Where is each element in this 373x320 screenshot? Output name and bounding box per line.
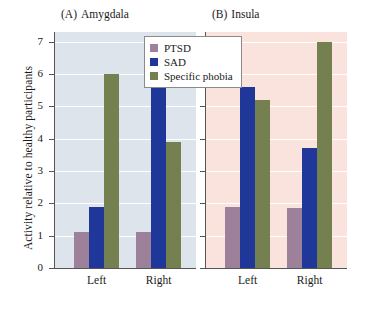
y-tick xyxy=(49,203,54,204)
legend-label: PTSD xyxy=(164,43,191,54)
x-axis-line-b xyxy=(205,268,347,269)
legend-swatch-icon xyxy=(150,58,158,66)
y-tick-label-6: 6 xyxy=(25,67,43,79)
gridline xyxy=(55,139,196,140)
bar-sad-right xyxy=(302,148,317,268)
y-tick xyxy=(49,74,54,75)
bar-ptsd-right xyxy=(136,232,151,268)
figure-bar-chart: Activity relative to healthy participant… xyxy=(0,0,373,320)
y-tick-label-7: 7 xyxy=(25,35,43,47)
legend-swatch-icon xyxy=(150,44,158,52)
bar-sad-left xyxy=(89,207,104,268)
panel-a-paren: (A) xyxy=(61,8,77,20)
bar-specific-phobia-left xyxy=(104,74,119,268)
y-axis-line-a xyxy=(54,32,55,269)
bar-sad-left xyxy=(240,87,255,268)
legend-item-specific-phobia: Specific phobia xyxy=(150,69,233,83)
y-tick xyxy=(200,236,205,237)
bar-ptsd-right xyxy=(287,208,302,268)
gridline xyxy=(55,106,196,107)
legend-swatch-icon xyxy=(150,72,158,80)
legend-item-ptsd: PTSD xyxy=(150,41,233,55)
y-tick xyxy=(49,139,54,140)
y-tick-label-4: 4 xyxy=(25,132,43,144)
panel-b-title: (B)Insula xyxy=(212,8,259,20)
y-tick-label-2: 2 xyxy=(25,196,43,208)
y-tick xyxy=(49,236,54,237)
y-tick xyxy=(49,106,54,107)
legend-label: Specific phobia xyxy=(164,71,233,82)
y-tick xyxy=(49,42,54,43)
y-tick xyxy=(200,268,205,269)
bar-specific-phobia-right xyxy=(317,42,332,268)
y-tick-label-3: 3 xyxy=(25,164,43,176)
y-tick xyxy=(49,268,54,269)
y-tick xyxy=(200,203,205,204)
y-tick xyxy=(200,171,205,172)
y-tick-label-0: 0 xyxy=(25,261,43,273)
panel-a-title: (A)Amygdala xyxy=(61,8,129,20)
x-tick-label-b-left: Left xyxy=(218,274,278,286)
chart-legend: PTSDSADSpecific phobia xyxy=(144,36,242,88)
bar-ptsd-left xyxy=(74,232,89,268)
bar-specific-phobia-right xyxy=(166,142,181,268)
panel-b-title-text: Insula xyxy=(231,8,259,20)
y-tick-label-5: 5 xyxy=(25,99,43,111)
bar-ptsd-left xyxy=(225,207,240,268)
y-tick-label-1: 1 xyxy=(25,229,43,241)
x-tick-label-a-left: Left xyxy=(67,274,127,286)
y-tick xyxy=(49,171,54,172)
y-tick xyxy=(200,139,205,140)
legend-item-sad: SAD xyxy=(150,55,233,69)
bar-specific-phobia-left xyxy=(255,100,270,268)
bar-sad-right xyxy=(151,85,166,268)
x-axis-line-a xyxy=(54,268,196,269)
panel-a-title-text: Amygdala xyxy=(81,8,129,20)
x-tick-label-a-right: Right xyxy=(129,274,189,286)
x-tick-label-b-right: Right xyxy=(280,274,340,286)
panel-b-paren: (B) xyxy=(212,8,227,20)
legend-label: SAD xyxy=(164,57,186,68)
y-tick xyxy=(200,106,205,107)
